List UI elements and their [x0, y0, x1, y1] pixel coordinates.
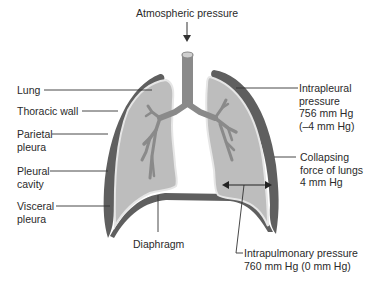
label-intrapulmonary-line-1: Intrapulmonary pressure — [244, 247, 358, 260]
label-lung: Lung — [17, 84, 40, 97]
label-diaphragm: Diaphragm — [133, 238, 184, 251]
label-diaphragm-line: Diaphragm — [133, 238, 184, 251]
label-visceral-line-2: pleura — [17, 213, 54, 226]
label-parietal-line-2: pleura — [17, 141, 53, 154]
lung-pressure-diagram — [0, 0, 381, 284]
label-intrapulmonary-line-2: 760 mm Hg (0 mm Hg) — [244, 260, 358, 273]
label-intrapleural-pressure: Intrapleural pressure 756 mm Hg (–4 mm H… — [299, 82, 354, 132]
atmospheric-pressure-label: Atmospheric pressure — [136, 7, 238, 20]
label-intrapleural-line-1: Intrapleural — [299, 82, 354, 95]
label-pleural-cavity: Pleural cavity — [17, 165, 50, 190]
label-intrapleural-line-3: 756 mm Hg — [299, 107, 354, 120]
label-intrapleural-line-2: pressure — [299, 95, 354, 108]
label-lung-line: Lung — [17, 84, 40, 97]
label-pleural-line-1: Pleural — [17, 165, 50, 178]
label-collapsing-line-2: force of lungs — [300, 164, 363, 177]
label-intrapleural-line-4: (–4 mm Hg) — [299, 120, 354, 133]
label-collapsing-force: Collapsing force of lungs 4 mm Hg — [300, 151, 363, 189]
label-pleural-line-2: cavity — [17, 178, 50, 191]
atmospheric-arrow — [183, 22, 191, 42]
label-intrapulmonary-pressure: Intrapulmonary pressure 760 mm Hg (0 mm … — [244, 247, 358, 272]
label-collapsing-line-1: Collapsing — [300, 151, 363, 164]
label-collapsing-line-3: 4 mm Hg — [300, 176, 363, 189]
label-parietal-line-1: Parietal — [17, 128, 53, 141]
right-lung — [206, 77, 268, 226]
label-thoracic-wall: Thoracic wall — [17, 105, 78, 118]
label-thoracic-wall-line: Thoracic wall — [17, 105, 78, 118]
label-parietal-pleura: Parietal pleura — [17, 128, 53, 153]
label-visceral-line-1: Visceral — [17, 200, 54, 213]
label-visceral-pleura: Visceral pleura — [17, 200, 54, 225]
